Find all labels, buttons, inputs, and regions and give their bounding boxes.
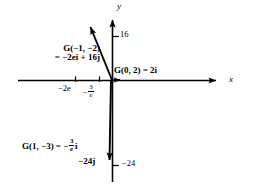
tick-label-x-neg2e-text: −2e	[58, 83, 71, 93]
vector-label-g-neg1-neg2-line2: = −2ei + 16j	[22, 53, 100, 62]
vector-label-g-1-neg3-prefix: G(1, −3) = −	[22, 141, 68, 151]
fraction-3-over-e: 3e	[88, 84, 94, 99]
vector-end-label-neg24j: −24j	[78, 157, 95, 166]
fraction-numerator-2: 3	[69, 138, 75, 145]
fraction-3-over-e-label: 3e	[69, 138, 75, 153]
vector-field-diagram: x y 16 −24 −2e −3e G(−1, −2) = −2ei + 16…	[0, 0, 255, 188]
vector-label-g-neg1-neg2: G(−1, −2) = −2ei + 16j	[22, 44, 100, 63]
vector-arrow-g-1-neg3	[110, 80, 112, 160]
tick-label-y-neg24: −24	[122, 159, 135, 168]
fraction-minus-sign: −	[83, 87, 88, 97]
tick-label-x-neg2e: −2e	[58, 84, 71, 93]
y-axis-label: y	[117, 2, 121, 11]
vector-label-g-1-neg3-suffix: i	[75, 141, 78, 151]
x-axis-label: x	[229, 75, 233, 84]
fraction-denominator-2: e	[69, 145, 75, 153]
fraction-denominator: e	[88, 91, 94, 99]
vector-label-g-1-neg3: G(1, −3) = −3ei	[22, 138, 77, 153]
tick-label-y-16: 16	[120, 30, 129, 39]
tick-label-x-neg3-over-e: −3e	[83, 84, 94, 99]
vector-label-g-0-2: G(0, 2) = 2i	[114, 66, 157, 75]
fraction-numerator: 3	[88, 84, 94, 91]
